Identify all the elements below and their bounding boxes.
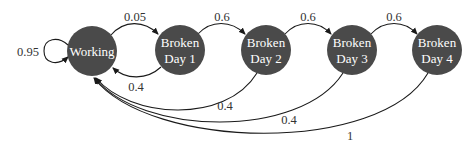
node-day2-line2: Day 2 [250, 51, 281, 66]
edge-day2-working [96, 73, 257, 110]
edge-day1-working [113, 67, 161, 77]
node-working-label: Working [69, 44, 115, 59]
node-day2-line1: Broken [247, 35, 286, 50]
edge-working-day1 [111, 24, 158, 35]
edge-day4-working [94, 73, 428, 133]
label-day4-working: 1 [347, 129, 353, 143]
node-day3-line2: Day 3 [336, 51, 367, 66]
edge-day3-day4 [371, 24, 417, 35]
label-working-self: 0.95 [17, 45, 39, 59]
edge-day1-day2 [198, 24, 245, 35]
label-day1-day2: 0.6 [214, 10, 230, 24]
node-day3-line1: Broken [333, 35, 372, 50]
markov-chain-diagram: 0.95 0.05 0.4 0.6 0.4 0.6 0.4 0.6 1 Work… [0, 0, 476, 157]
node-day4-line1: Broken [418, 35, 457, 50]
node-broken-day-3: Broken Day 3 [327, 25, 377, 75]
node-day1-line2: Day 1 [164, 51, 195, 66]
node-broken-day-1: Broken Day 1 [155, 25, 205, 75]
edge-working-self [44, 39, 68, 62]
node-broken-day-4: Broken Day 4 [412, 25, 462, 75]
label-day2-day3: 0.6 [300, 10, 316, 24]
label-day1-working: 0.4 [128, 80, 144, 94]
node-working: Working [67, 26, 117, 76]
node-broken-day-2: Broken Day 2 [241, 25, 291, 75]
label-day2-working: 0.4 [217, 99, 233, 113]
edge-day2-day3 [285, 24, 331, 35]
label-working-day1: 0.05 [124, 10, 146, 24]
node-day1-line1: Broken [161, 35, 200, 50]
label-day3-day4: 0.6 [386, 10, 402, 24]
label-day3-working: 0.4 [281, 113, 297, 127]
node-day4-line2: Day 4 [421, 51, 453, 66]
